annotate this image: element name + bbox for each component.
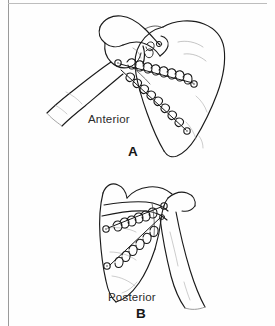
humerus-shade-a-2 bbox=[55, 105, 67, 114]
anchor-dot-b-2 bbox=[106, 265, 107, 266]
fossa-line-a-2 bbox=[184, 54, 206, 61]
anchor-dot-a-4 bbox=[158, 43, 159, 44]
scapula-superior-border-b bbox=[127, 187, 172, 198]
anchor-dot-a-2 bbox=[193, 83, 194, 84]
figure-container: Anterior A Posterior B bbox=[0, 0, 275, 326]
anchor-dot-b-4 bbox=[161, 216, 162, 217]
panel-a-view-label: Anterior bbox=[88, 113, 130, 125]
panel-b-letter: B bbox=[136, 306, 146, 321]
panel-b-view-label: Posterior bbox=[108, 291, 156, 303]
humerus-end-a bbox=[47, 113, 62, 126]
anchor-dot-a-3 bbox=[186, 130, 187, 131]
acromion-lower-b bbox=[182, 206, 195, 211]
coracoid-process-a bbox=[123, 42, 160, 56]
humerus-medial-border-b bbox=[160, 218, 185, 308]
humerus-shade-b-1 bbox=[170, 232, 178, 266]
anchor-dot-a-1 bbox=[117, 62, 118, 63]
humerus-shade-b-2 bbox=[184, 282, 190, 300]
coiled-wire-icon-a-2 bbox=[126, 73, 183, 126]
panel-a-drawing bbox=[47, 16, 225, 157]
anchor-dot-b-3 bbox=[163, 205, 164, 206]
humerus-upper-border-a bbox=[47, 62, 111, 113]
wire-vertical-a bbox=[143, 46, 145, 64]
scapular-spine-upper-b bbox=[104, 202, 168, 211]
fossa-line-a-4 bbox=[186, 122, 196, 139]
suture-row-a-1 bbox=[120, 59, 193, 84]
acromion-lower-a bbox=[99, 27, 123, 47]
scapula-body-outline-a bbox=[163, 21, 225, 157]
coiled-wire-icon-b-2 bbox=[115, 226, 158, 267]
fossa-line-a-3 bbox=[196, 96, 207, 112]
superior-angle-b bbox=[103, 184, 127, 198]
humerus-lateral-border-b bbox=[176, 212, 205, 307]
fossa-line-a-1 bbox=[178, 41, 203, 47]
fossa-line-b-3 bbox=[112, 276, 135, 286]
scapula-medial-border-b bbox=[100, 193, 116, 302]
humerus-end-b bbox=[185, 307, 205, 309]
illustration-canvas bbox=[0, 0, 275, 326]
panel-a-letter: A bbox=[128, 144, 138, 159]
anchor-dot-b-1 bbox=[105, 228, 106, 229]
acromion-outline-a bbox=[100, 16, 160, 45]
fossa-line-a-5 bbox=[199, 136, 203, 148]
